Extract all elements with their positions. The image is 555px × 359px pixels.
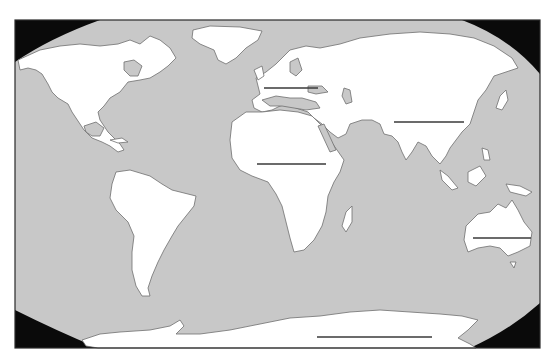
world-map (0, 0, 555, 359)
